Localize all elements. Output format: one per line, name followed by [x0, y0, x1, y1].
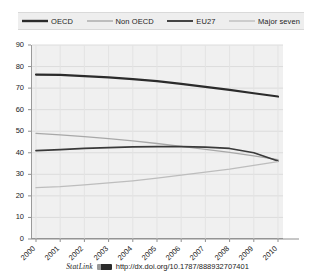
y-axis-tick-label: 90 — [2, 40, 24, 49]
y-axis-tick-label: 60 — [2, 105, 24, 114]
y-axis-tick-label: 20 — [2, 191, 24, 200]
chart-figure: OECD Non OECD EU27 Major seven 01020304 — [0, 0, 315, 278]
gridlines — [32, 45, 283, 239]
y-axis-tick-label: 0 — [2, 234, 24, 243]
y-axis-tick-label: 40 — [2, 148, 24, 157]
statlink-url[interactable]: http://dx.doi.org/10.1787/888932707401 — [116, 262, 249, 271]
y-axis-tick-label: 30 — [2, 169, 24, 178]
statlink-label: StatLink — [66, 262, 93, 271]
plot-canvas — [0, 0, 315, 278]
statlink-footer: StatLink http://dx.doi.org/10.1787/88893… — [0, 262, 315, 271]
y-axis-tick-label: 70 — [2, 83, 24, 92]
x-axis-ticks — [31, 239, 299, 242]
statlink-barcode-icon — [97, 264, 112, 270]
y-axis-tick-label: 10 — [2, 212, 24, 221]
y-axis-ticks — [28, 45, 31, 239]
y-axis-tick-label: 50 — [2, 126, 24, 135]
y-axis-tick-label: 80 — [2, 62, 24, 71]
